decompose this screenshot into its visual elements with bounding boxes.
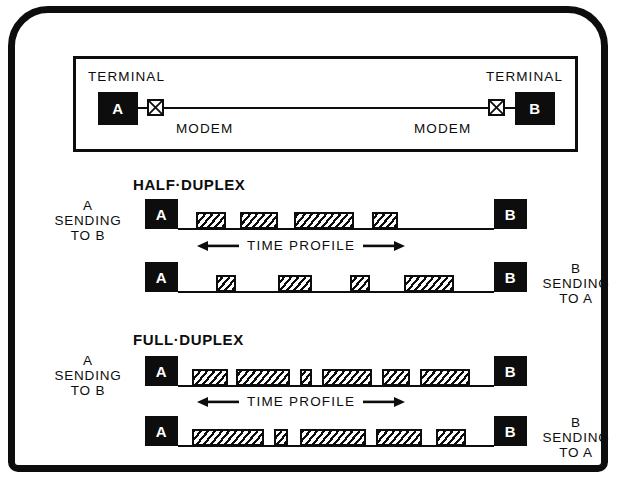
- half-duplex-row1-end-label: B: [505, 206, 516, 223]
- half-duplex-b-to-a-pulse-3: [350, 275, 370, 292]
- half-duplex-row2-timeline: [178, 262, 494, 296]
- full-duplex-a-to-b-pulse-6: [420, 369, 470, 386]
- full-duplex-left-label-line-3: TO B: [35, 383, 141, 398]
- crossed-box-modem-icon-right: [488, 99, 505, 116]
- full-duplex-row1-start-label: A: [156, 363, 167, 380]
- half-duplex-row1-end-box: B: [494, 199, 527, 229]
- half-duplex-b-to-a-pulse-2: [278, 275, 312, 292]
- half-duplex-left-label: A SENDING TO B: [35, 198, 141, 243]
- crossed-box-modem-icon-left: [147, 99, 164, 116]
- full-duplex-row2-timeline: [178, 416, 494, 450]
- half-duplex-right-label-line-3: TO A: [531, 291, 621, 306]
- right-terminal-caption: TERMINAL: [486, 69, 563, 84]
- half-duplex-b-to-a-pulse-1: [216, 275, 236, 292]
- arrow-right-icon: [363, 396, 405, 408]
- full-duplex-right-label-line-2: SENDING: [531, 430, 621, 445]
- full-duplex-b-to-a-pulse-1: [192, 429, 264, 446]
- terminal-link-panel: TERMINAL TERMINAL A B MODEM MODEM: [73, 56, 578, 152]
- half-duplex-time-profile: TIME PROFILE: [197, 238, 405, 253]
- half-duplex-row2-end-box: B: [494, 262, 527, 292]
- full-duplex-row1-end-box: B: [494, 356, 527, 386]
- full-duplex-time-profile-label: TIME PROFILE: [247, 394, 355, 409]
- terminal-b-box: B: [515, 92, 555, 125]
- half-duplex-row2-start-box: A: [145, 262, 178, 292]
- terminal-a-box: A: [98, 92, 138, 125]
- half-duplex-left-label-line-2: SENDING: [35, 213, 141, 228]
- terminal-b-label: B: [529, 100, 540, 117]
- full-duplex-a-to-b-pulse-2: [236, 369, 290, 386]
- full-duplex-right-label: B SENDING TO A: [531, 415, 621, 460]
- arrow-left-icon: [197, 240, 239, 252]
- full-duplex-left-label: A SENDING TO B: [35, 353, 141, 398]
- full-duplex-left-label-line-1: A: [35, 353, 141, 368]
- half-duplex-a-to-b-pulse-4: [372, 212, 398, 229]
- half-duplex-row2-start-label: A: [156, 269, 167, 286]
- half-duplex-row1-start-label: A: [156, 206, 167, 223]
- arrow-right-icon: [363, 240, 405, 252]
- full-duplex-row1-timeline: [178, 356, 494, 390]
- full-duplex-row2-end-box: B: [494, 416, 527, 446]
- left-modem-caption: MODEM: [176, 121, 233, 136]
- full-duplex-a-to-b-pulse-3: [300, 369, 312, 386]
- figure-outer-frame: TERMINAL TERMINAL A B MODEM MODEM: [8, 6, 608, 472]
- full-duplex-a-to-b-pulse-5: [382, 369, 410, 386]
- terminal-a-modem-wire: [138, 107, 147, 109]
- terminal-a-label: A: [112, 100, 123, 117]
- full-duplex-title: FULL·DUPLEX: [133, 331, 244, 348]
- half-duplex-title: HALF·DUPLEX: [133, 176, 245, 193]
- left-terminal-caption: TERMINAL: [88, 69, 165, 84]
- half-duplex-a-to-b-pulse-3: [294, 212, 354, 229]
- half-duplex-right-label-line-2: SENDING: [531, 276, 621, 291]
- full-duplex-row2-start-label: A: [156, 423, 167, 440]
- full-duplex-right-label-line-1: B: [531, 415, 621, 430]
- arrow-left-icon: [197, 396, 239, 408]
- half-duplex-row1-timeline: [178, 199, 494, 233]
- full-duplex-b-to-a-pulse-4: [376, 429, 422, 446]
- full-duplex-row2-start-box: A: [145, 416, 178, 446]
- full-duplex-a-to-b-pulse-4: [322, 369, 372, 386]
- half-duplex-a-to-b-pulse-2: [240, 212, 278, 229]
- full-duplex-row2-end-label: B: [505, 423, 516, 440]
- half-duplex-row2-end-label: B: [505, 269, 516, 286]
- full-duplex-row1-start-box: A: [145, 356, 178, 386]
- half-duplex-left-label-line-3: TO B: [35, 228, 141, 243]
- full-duplex-a-to-b-pulse-1: [192, 369, 228, 386]
- telephone-line-wire: [164, 107, 488, 109]
- full-duplex-left-label-line-2: SENDING: [35, 368, 141, 383]
- half-duplex-right-label: B SENDING TO A: [531, 261, 621, 306]
- right-modem-caption: MODEM: [414, 121, 471, 136]
- full-duplex-b-to-a-pulse-5: [436, 429, 466, 446]
- full-duplex-b-to-a-pulse-2: [274, 429, 288, 446]
- full-duplex-b-to-a-pulse-3: [300, 429, 366, 446]
- half-duplex-right-label-line-1: B: [531, 261, 621, 276]
- full-duplex-right-label-line-3: TO A: [531, 445, 621, 460]
- half-duplex-time-profile-label: TIME PROFILE: [247, 238, 355, 253]
- full-duplex-row1-end-label: B: [505, 363, 516, 380]
- half-duplex-b-to-a-pulse-4: [404, 275, 454, 292]
- half-duplex-a-to-b-pulse-1: [196, 212, 226, 229]
- modem-terminal-b-wire: [505, 107, 515, 109]
- full-duplex-time-profile: TIME PROFILE: [197, 394, 405, 409]
- half-duplex-row1-start-box: A: [145, 199, 178, 229]
- half-duplex-left-label-line-1: A: [35, 198, 141, 213]
